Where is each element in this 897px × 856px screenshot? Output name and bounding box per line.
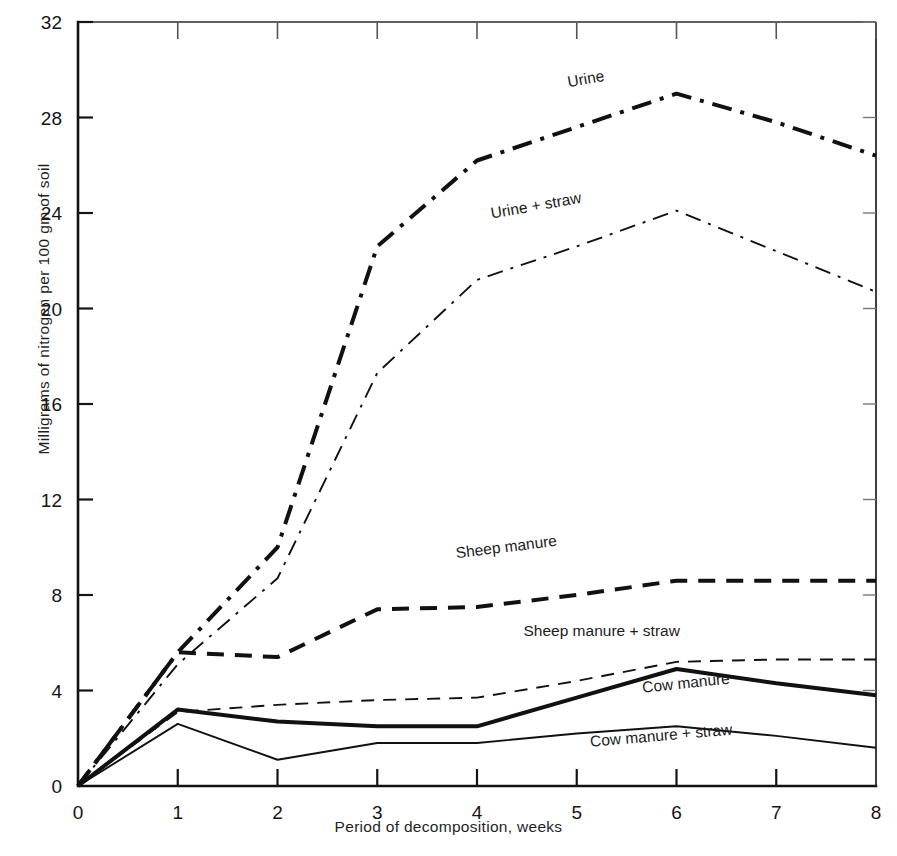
series-line-sheep-manure-straw — [78, 659, 876, 786]
x-axis-title: Period of decomposition, weeks — [0, 818, 897, 836]
y-tick-label: 28 — [41, 108, 62, 129]
series-label-urine-straw: Urine + straw — [489, 189, 583, 222]
line-chart: 048121620242832 012345678 UrineUrine + s… — [0, 0, 897, 856]
y-axis-tick-labels: 048121620242832 — [41, 12, 63, 797]
axis-frame — [78, 22, 876, 786]
series-line-urine-straw — [78, 211, 876, 786]
y-tick-label: 20 — [41, 299, 62, 320]
series-label-cow-manure-straw: Cow manure + straw — [589, 720, 733, 749]
y-tick-label: 0 — [51, 776, 62, 797]
series-label-urine: Urine — [566, 67, 605, 90]
y-tick-label: 8 — [51, 585, 62, 606]
series-paths — [78, 94, 876, 786]
y-tick-label: 4 — [51, 681, 62, 702]
series-label-sheep-manure-straw: Sheep manure + straw — [523, 622, 680, 639]
tick-marks — [78, 22, 876, 786]
y-tick-label: 16 — [41, 394, 62, 415]
series-label-sheep-manure: Sheep manure — [455, 532, 558, 561]
figure-nitrogen-decomposition: 048121620242832 012345678 UrineUrine + s… — [0, 0, 897, 856]
y-tick-label: 24 — [41, 203, 63, 224]
y-tick-label: 12 — [41, 490, 62, 511]
series-line-sheep-manure — [78, 581, 876, 786]
y-tick-label: 32 — [41, 12, 62, 33]
series-line-cow-manure — [78, 669, 876, 786]
series-inline-labels: UrineUrine + strawSheep manureSheep manu… — [455, 67, 734, 750]
